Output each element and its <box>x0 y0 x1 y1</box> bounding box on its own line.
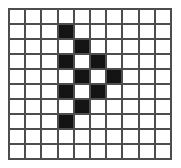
grid-cell-empty <box>10 55 26 70</box>
grid-cell-empty <box>91 10 107 25</box>
grid-cell-empty <box>42 10 58 25</box>
grid-cell-empty <box>42 40 58 55</box>
grid-cell-empty <box>140 145 156 160</box>
grid-cell-empty <box>59 70 75 85</box>
grid-cell-empty <box>10 85 26 100</box>
grid-cell-empty <box>75 85 91 100</box>
grid-cell-empty <box>26 40 42 55</box>
grid-cell-empty <box>91 70 107 85</box>
grid-cell-empty <box>107 145 123 160</box>
grid-cell-empty <box>140 70 156 85</box>
grid-cell-empty <box>156 115 172 130</box>
grid-cell-empty <box>75 115 91 130</box>
grid-cell-empty <box>26 100 42 115</box>
grid-cell-empty <box>42 130 58 145</box>
grid-cell-empty <box>10 130 26 145</box>
grid-cell-empty <box>10 145 26 160</box>
grid-cell-empty <box>123 130 139 145</box>
grid-cell-empty <box>42 145 58 160</box>
grid-cell-empty <box>107 55 123 70</box>
grid-cell-empty <box>26 130 42 145</box>
grid-cell-empty <box>42 100 58 115</box>
grid-cell-empty <box>140 100 156 115</box>
grid-cell-empty <box>26 145 42 160</box>
grid-cell-empty <box>123 25 139 40</box>
grid-cell-empty <box>123 145 139 160</box>
grid-cell-filled <box>91 85 107 100</box>
grid-cell-empty <box>91 100 107 115</box>
grid-cell-empty <box>140 25 156 40</box>
grid-cell-empty <box>123 55 139 70</box>
grid-cell-empty <box>75 10 91 25</box>
grid-cell-empty <box>10 100 26 115</box>
grid-cell-empty <box>123 10 139 25</box>
grid-cell-empty <box>140 55 156 70</box>
grid-container <box>8 8 172 160</box>
grid-cell-empty <box>156 85 172 100</box>
grid-cell-empty <box>59 145 75 160</box>
grid-cell-empty <box>123 100 139 115</box>
grid-cell-empty <box>26 10 42 25</box>
grid-cell-empty <box>123 40 139 55</box>
grid-cell-empty <box>140 40 156 55</box>
grid-cell-empty <box>156 10 172 25</box>
grid-cell-empty <box>156 130 172 145</box>
grid-cell-empty <box>107 10 123 25</box>
grid-cell-empty <box>26 85 42 100</box>
grid-cell-empty <box>10 70 26 85</box>
grid-cell-filled <box>75 40 91 55</box>
grid-cell-empty <box>91 145 107 160</box>
grid-cell-empty <box>140 85 156 100</box>
grid-cell-empty <box>140 10 156 25</box>
grid-cell-empty <box>156 145 172 160</box>
grid-cell-empty <box>140 115 156 130</box>
grid-cell-empty <box>107 25 123 40</box>
grid-cell-empty <box>26 55 42 70</box>
grid-cell-filled <box>75 100 91 115</box>
grid-cell-empty <box>10 10 26 25</box>
grid-cell-empty <box>107 85 123 100</box>
grid-cell-empty <box>26 115 42 130</box>
grid-cell-empty <box>107 40 123 55</box>
grid-cell-filled <box>75 70 91 85</box>
grid-cell-empty <box>140 130 156 145</box>
grid-cell-empty <box>26 70 42 85</box>
grid-cell-empty <box>75 55 91 70</box>
grid-cell-empty <box>123 115 139 130</box>
grid-cell-filled <box>107 70 123 85</box>
grid-cell-empty <box>10 40 26 55</box>
grid-cell-empty <box>59 40 75 55</box>
grid-cell-filled <box>59 115 75 130</box>
grid-cell-empty <box>42 115 58 130</box>
grid-cell-empty <box>156 25 172 40</box>
grid-cell-empty <box>75 145 91 160</box>
grid-cell-empty <box>123 85 139 100</box>
grid-cell-empty <box>156 55 172 70</box>
grid-cell-empty <box>107 130 123 145</box>
grid-cell-empty <box>156 40 172 55</box>
grid-cell-empty <box>91 40 107 55</box>
grid-cell-empty <box>107 100 123 115</box>
grid-cell-filled <box>59 25 75 40</box>
grid-cell-empty <box>75 25 91 40</box>
grid-cell-filled <box>59 85 75 100</box>
grid-cell-empty <box>123 70 139 85</box>
pattern-grid <box>8 8 172 160</box>
grid-cell-empty <box>42 25 58 40</box>
grid-cell-empty <box>107 115 123 130</box>
grid-cell-empty <box>91 115 107 130</box>
grid-cell-empty <box>42 55 58 70</box>
grid-cell-empty <box>26 25 42 40</box>
grid-cell-empty <box>156 70 172 85</box>
grid-cell-empty <box>156 100 172 115</box>
grid-cell-empty <box>59 130 75 145</box>
grid-cell-empty <box>91 25 107 40</box>
grid-cell-empty <box>10 25 26 40</box>
grid-pattern-figure <box>0 0 181 168</box>
grid-cell-filled <box>91 55 107 70</box>
grid-cell-empty <box>59 100 75 115</box>
grid-cell-empty <box>59 10 75 25</box>
grid-cell-empty <box>42 85 58 100</box>
grid-cell-empty <box>10 115 26 130</box>
grid-cell-filled <box>59 55 75 70</box>
